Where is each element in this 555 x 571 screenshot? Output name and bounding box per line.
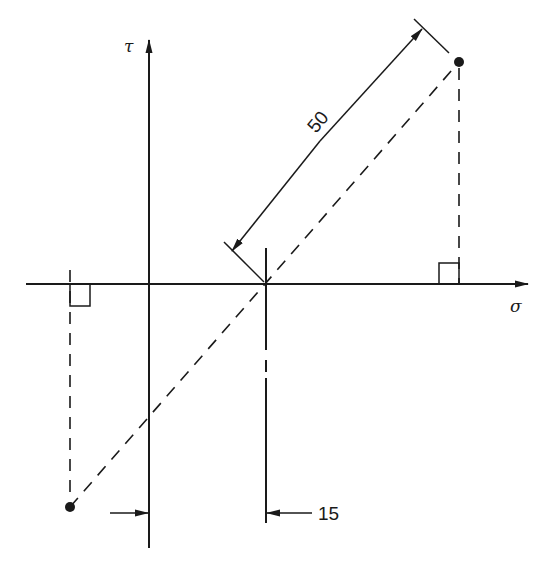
lower-left-stress-point: [65, 502, 75, 512]
offset-value-label: 15: [318, 503, 339, 524]
upper-right-stress-point: [454, 57, 464, 67]
radius-dimension: [224, 19, 449, 282]
mohr-diagram: σ τ 50 15: [0, 0, 555, 571]
sigma-axis-label: σ: [510, 296, 522, 316]
right-angle-marker-left: [70, 284, 90, 306]
tau-axis-label: τ: [124, 36, 134, 56]
radius-extension-line-point: [414, 19, 449, 53]
radius-extension-line-centre: [224, 242, 264, 282]
radius-dimension-line-up: [320, 29, 422, 141]
radius-dimension-line-down: [232, 141, 320, 251]
right-angle-marker-right: [439, 263, 459, 284]
